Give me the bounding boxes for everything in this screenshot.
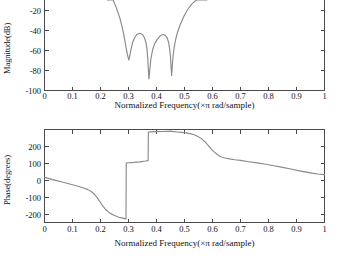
magnitude-xtick-10: 1: [322, 91, 326, 100]
magnitude-xtick-3: 0.3: [123, 91, 134, 100]
magnitude-plot-area: -20 -40 -60 -80 -100 0 0.1 0.2 0.3 0.4 0…: [0, 0, 339, 100]
magnitude-xtick-5: 0.5: [179, 91, 190, 100]
magnitude-x-tick-labels: 0 0.1 0.2 0.3 0.4 0.5 0.6 0.7 0.8 0.9 1: [42, 91, 326, 100]
magnitude-ytick-4: -100: [25, 86, 41, 96]
phase-xtick-1: 0.1: [67, 224, 78, 234]
phase-xtick-5: 0.5: [179, 224, 190, 234]
phase-ytick-3: -100: [25, 193, 41, 203]
magnitude-ytick-2: -60: [30, 46, 41, 56]
phase-y-ticks: [45, 147, 325, 215]
magnitude-xtick-0: 0: [42, 91, 46, 100]
phase-xtick-6: 0.6: [207, 224, 218, 234]
figure-container: Magnitude(dB): [0, 0, 339, 265]
phase-ytick-2: 0: [37, 176, 41, 186]
magnitude-xtick-1: 0.1: [67, 91, 78, 100]
magnitude-ytick-0: -20: [30, 6, 41, 16]
phase-plot-area: 200 100 0 -100 -200 0 0.1 0.2 0.3 0.4 0.…: [0, 125, 339, 237]
magnitude-x-ticks: [73, 87, 297, 91]
phase-xtick-3: 0.3: [123, 224, 134, 234]
phase-xtick-8: 0.8: [263, 224, 274, 234]
phase-y-tick-labels: 200 100 0 -100 -200: [25, 142, 41, 220]
phase-xtick-2: 0.2: [95, 224, 106, 234]
magnitude-x-axis-label: Normalized Frequency(×π rad/sample): [44, 100, 325, 110]
phase-xtick-10: 1: [322, 224, 326, 234]
phase-xtick-4: 0.4: [151, 224, 162, 234]
phase-x-ticks: [73, 130, 297, 223]
phase-x-tick-labels: 0 0.1 0.2 0.3 0.4 0.5 0.6 0.7 0.8 0.9 1: [42, 224, 326, 234]
magnitude-ytick-1: -40: [30, 26, 41, 36]
magnitude-axes: [45, 0, 325, 91]
phase-x-axis-label: Normalized Frequency(×π rad/sample): [44, 238, 325, 248]
phase-ytick-4: -200: [25, 210, 41, 220]
magnitude-xtick-6: 0.6: [207, 91, 218, 100]
phase-panel: Phase(degrees): [0, 125, 339, 265]
phase-response-curve: [45, 131, 325, 219]
phase-ytick-0: 200: [28, 142, 41, 152]
magnitude-y-ticks: [45, 11, 325, 71]
phase-xtick-9: 0.9: [291, 224, 302, 234]
magnitude-y-tick-labels: -20 -40 -60 -80 -100: [25, 6, 41, 96]
phase-ytick-1: 100: [28, 159, 41, 169]
magnitude-ytick-3: -80: [30, 66, 41, 76]
magnitude-xtick-8: 0.8: [263, 91, 274, 100]
magnitude-xtick-4: 0.4: [151, 91, 162, 100]
phase-axes: [45, 130, 325, 223]
phase-xtick-7: 0.7: [235, 224, 246, 234]
magnitude-panel: Magnitude(dB): [0, 0, 339, 125]
magnitude-xtick-7: 0.7: [235, 91, 246, 100]
phase-xtick-0: 0: [42, 224, 46, 234]
magnitude-xtick-2: 0.2: [95, 91, 106, 100]
magnitude-response-curve: [108, 0, 207, 79]
magnitude-xtick-9: 0.9: [291, 91, 302, 100]
